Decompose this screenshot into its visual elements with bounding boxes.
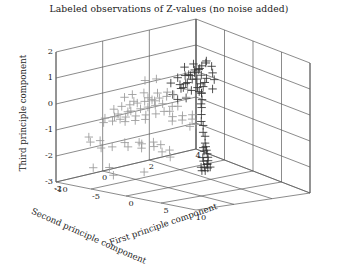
- y-tick-1: 2: [149, 161, 154, 171]
- z-tick-5: -3: [45, 176, 53, 186]
- z-tick-2: 0: [48, 98, 53, 108]
- x-tick-1: -5: [92, 191, 100, 201]
- z-tick-4: -2: [45, 150, 53, 160]
- z-tick-1: 1: [48, 72, 53, 82]
- figure-container: Labeled observations of Z-values (no noi…: [0, 0, 338, 272]
- z-axis-label: Third principle component: [18, 38, 28, 188]
- x-tick-3: 5: [163, 205, 168, 215]
- y-tick-2: 0: [102, 172, 107, 182]
- z-tick-0: 2: [48, 46, 53, 56]
- x-tick-2: 0: [128, 198, 133, 208]
- z-tick-3: -1: [45, 124, 53, 134]
- x-tick-4: 10: [196, 212, 206, 222]
- x-tick-0: -10: [54, 184, 67, 194]
- axes-grid: [56, 19, 310, 210]
- y-tick-0: 4: [195, 150, 200, 160]
- plot-area: [0, 0, 338, 272]
